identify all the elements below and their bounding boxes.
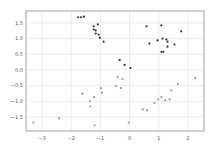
data-point: [194, 77, 196, 79]
data-point: [153, 102, 155, 104]
data-point: [101, 92, 103, 94]
data-point: [145, 25, 147, 27]
data-point: [80, 16, 82, 18]
y-axis-ticks: 1.51.00.50.0−0.5−1.0−1.5: [11, 20, 23, 120]
data-point: [157, 39, 159, 41]
data-point: [114, 85, 116, 87]
data-point: [119, 59, 121, 61]
data-point: [99, 37, 101, 39]
data-point: [93, 28, 95, 30]
y-tick-label: 0.0: [15, 67, 23, 73]
data-point: [120, 87, 122, 89]
data-point: [180, 30, 182, 32]
data-point: [93, 96, 95, 98]
data-point: [148, 42, 150, 44]
scatter-chart: −3−2−1012 1.51.00.50.0−0.5−1.0−1.5: [0, 0, 214, 150]
data-point: [128, 121, 130, 123]
data-point: [166, 41, 168, 43]
x-tick-label: 1: [157, 135, 160, 141]
data-points: [32, 16, 196, 127]
data-point: [58, 117, 60, 119]
x-tick-label: −3: [38, 135, 45, 141]
data-point: [98, 33, 100, 35]
grid-lines: [26, 11, 204, 131]
x-tick-label: 0: [128, 135, 131, 141]
data-point: [100, 87, 102, 89]
data-point: [89, 100, 91, 102]
plot-frame: [26, 11, 204, 131]
data-point: [160, 51, 162, 53]
y-tick-label: 0.5: [15, 51, 23, 57]
data-point: [117, 76, 119, 78]
data-point: [89, 105, 91, 107]
data-point: [164, 99, 166, 101]
data-point: [166, 46, 168, 48]
data-point: [121, 78, 123, 80]
data-point: [124, 64, 126, 66]
data-point: [77, 16, 79, 18]
data-point: [83, 16, 85, 18]
data-point: [142, 108, 144, 110]
data-point: [160, 96, 162, 98]
data-point: [173, 43, 175, 45]
data-point: [97, 23, 99, 25]
y-tick-label: −1.0: [11, 98, 23, 104]
data-point: [81, 93, 83, 95]
data-point: [32, 121, 34, 123]
y-tick-label: −1.5: [11, 114, 23, 120]
data-point: [157, 98, 159, 100]
data-point: [162, 51, 164, 53]
data-point: [103, 41, 105, 43]
y-tick-label: 1.0: [15, 35, 23, 41]
data-point: [177, 83, 179, 85]
data-point: [95, 32, 97, 34]
x-axis-ticks: −3−2−1012: [38, 135, 189, 141]
data-point: [93, 25, 95, 27]
data-point: [95, 29, 97, 31]
x-tick-label: −1: [97, 135, 104, 141]
data-point: [165, 38, 167, 40]
data-point: [160, 24, 162, 26]
x-tick-label: 2: [186, 135, 189, 141]
data-point: [93, 124, 95, 126]
data-point: [146, 109, 148, 111]
data-point: [129, 67, 131, 69]
y-tick-label: −0.5: [11, 82, 23, 88]
data-point: [170, 89, 172, 91]
data-point: [168, 98, 170, 100]
y-tick-label: 1.5: [15, 20, 23, 26]
data-point: [161, 37, 163, 39]
x-tick-label: −2: [68, 135, 75, 141]
